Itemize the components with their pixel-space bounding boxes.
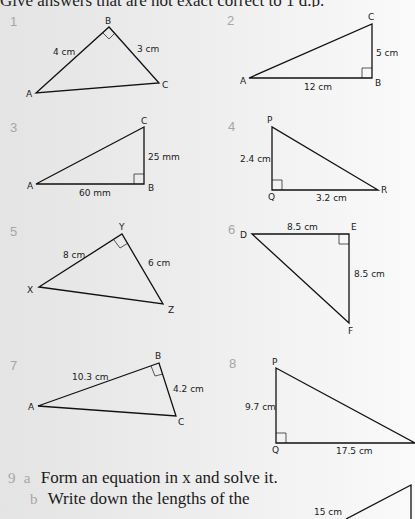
question9-figure <box>346 485 411 519</box>
part-a-text: Form an equation in x and solve it. <box>41 468 278 487</box>
svg-text:8 cm: 8 cm <box>63 250 85 260</box>
svg-text:10.3 cm: 10.3 cm <box>72 372 109 382</box>
svg-text:12 cm: 12 cm <box>304 82 332 92</box>
svg-text:A: A <box>27 181 34 191</box>
triangle-1 <box>36 27 159 93</box>
svg-text:6 cm: 6 cm <box>148 258 170 268</box>
svg-text:C: C <box>178 417 184 427</box>
svg-text:P: P <box>267 115 273 125</box>
svg-text:8.5 cm: 8.5 cm <box>354 269 385 279</box>
svg-text:Z: Z <box>168 305 174 315</box>
svg-text:3 cm: 3 cm <box>137 44 159 54</box>
svg-text:A: A <box>240 76 247 86</box>
question-number-9: 9 <box>8 470 16 486</box>
triangle-5 <box>39 234 163 304</box>
question-9-part-b: b Write down the lengths of the <box>30 489 250 509</box>
question-9-part-a: 9 a Form an equation in x and solve it. <box>8 468 278 488</box>
svg-text:Q: Q <box>272 445 279 455</box>
svg-text:C: C <box>141 116 147 126</box>
svg-text:B: B <box>155 351 161 361</box>
triangle-3 <box>36 127 144 184</box>
svg-text:25 mm: 25 mm <box>148 152 180 162</box>
svg-text:B: B <box>148 183 154 193</box>
svg-text:P: P <box>272 357 278 367</box>
svg-text:60 mm: 60 mm <box>79 188 111 198</box>
svg-text:Y: Y <box>118 222 125 232</box>
part-label-a: a <box>24 470 31 486</box>
svg-text:B: B <box>375 78 381 88</box>
svg-text:5 cm: 5 cm <box>376 48 398 58</box>
triangle-8 <box>276 368 415 443</box>
part-label-b: b <box>30 491 38 507</box>
triangle-figures: B A C 4 cm 3 cm C A B 12 cm 5 cm C A B 6… <box>0 0 415 519</box>
svg-text:E: E <box>351 222 357 232</box>
svg-text:C: C <box>162 80 168 90</box>
triangle-6 <box>252 234 349 323</box>
svg-text:2.4 cm: 2.4 cm <box>240 154 271 164</box>
svg-text:D: D <box>240 230 247 240</box>
triangle-4 <box>272 127 378 190</box>
triangle-7 <box>38 363 176 416</box>
svg-text:A: A <box>26 89 33 99</box>
svg-text:8.5 cm: 8.5 cm <box>287 222 318 232</box>
svg-text:C: C <box>368 12 374 22</box>
svg-text:X: X <box>27 285 33 295</box>
vertex-label: B <box>105 16 111 26</box>
svg-text:Q: Q <box>268 192 275 202</box>
svg-text:A: A <box>28 402 35 412</box>
triangle-2 <box>249 24 372 78</box>
svg-text:9.7 cm: 9.7 cm <box>245 402 276 412</box>
svg-text:F: F <box>348 326 353 336</box>
svg-text:15 cm: 15 cm <box>314 507 342 517</box>
svg-text:3.2 cm: 3.2 cm <box>316 193 347 203</box>
svg-text:R: R <box>381 185 387 195</box>
svg-text:4.2 cm: 4.2 cm <box>173 384 204 394</box>
svg-text:17.5 cm: 17.5 cm <box>336 446 373 456</box>
side-length: 4 cm <box>53 47 75 57</box>
part-b-text: Write down the lengths of the <box>48 489 250 508</box>
